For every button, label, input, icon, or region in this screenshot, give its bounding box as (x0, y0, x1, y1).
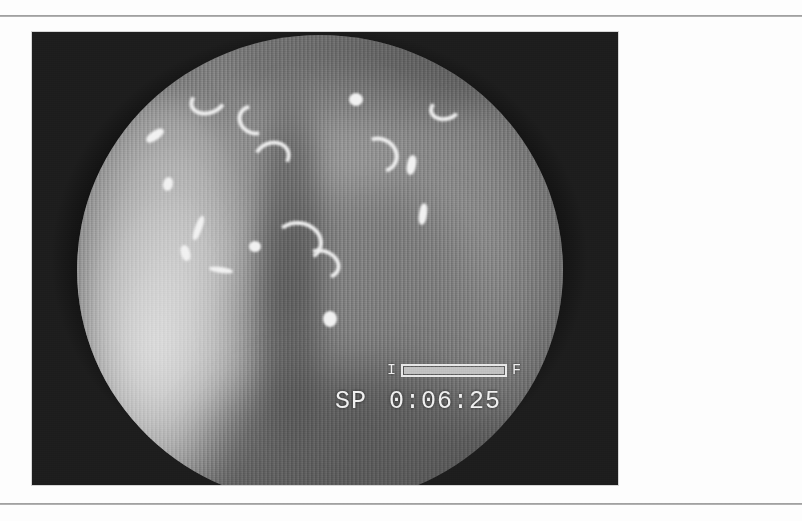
endoscopic-photograph: I F SP 0:06:25 (32, 32, 618, 485)
endoscope-field-of-view (77, 35, 563, 485)
specular-dot-mid-field (323, 311, 337, 327)
specular-dot-upper-right (349, 93, 363, 106)
page-rule-top (0, 15, 802, 17)
specular-dot-center-low (249, 241, 261, 252)
page-rule-bottom (0, 503, 802, 505)
document-page: I F SP 0:06:25 (0, 0, 802, 521)
